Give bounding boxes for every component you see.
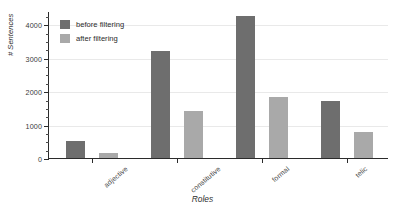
x-axis-title: Roles — [0, 194, 405, 204]
bar-chart: 01000200030004000 adjectiveconstitutivef… — [0, 0, 405, 219]
bar-formal-after-filtering — [269, 97, 288, 158]
y-axis-minor-tick — [46, 84, 49, 85]
y-axis-tick-label: 4000 — [26, 21, 42, 30]
y-axis-minor-tick — [46, 101, 49, 102]
legend-swatch-icon — [60, 34, 70, 43]
y-axis-title: # Sentences — [6, 14, 15, 56]
legend-swatch-icon — [60, 20, 70, 29]
y-axis-minor-tick — [46, 109, 49, 110]
y-axis-minor-tick — [46, 42, 49, 43]
x-axis-category-label: formal — [270, 165, 290, 183]
y-axis-minor-tick — [46, 50, 49, 51]
x-axis-tick — [262, 158, 263, 163]
y-axis-minor-tick — [46, 17, 49, 18]
legend-label: before filtering — [76, 20, 124, 29]
bar-group — [151, 12, 203, 158]
y-axis-tick — [44, 92, 49, 93]
y-axis-tick — [44, 159, 49, 160]
bar-group — [321, 12, 373, 158]
bar-group — [236, 12, 288, 158]
x-axis-category-label: adjective — [102, 165, 128, 189]
x-axis-category-label: constitutive — [189, 165, 221, 194]
y-axis-minor-tick — [46, 34, 49, 35]
bar-adjective-before-filtering — [66, 141, 85, 158]
bar-constitutive-after-filtering — [184, 111, 203, 158]
y-axis-minor-tick — [46, 142, 49, 143]
y-axis-minor-tick — [46, 151, 49, 152]
legend-item: after filtering — [60, 34, 124, 43]
x-axis-tick — [347, 158, 348, 163]
bar-telic-after-filtering — [354, 132, 373, 158]
y-axis-tick-label: 3000 — [26, 54, 42, 63]
y-axis-tick-label: 2000 — [26, 88, 42, 97]
x-axis-tick — [177, 158, 178, 163]
y-axis-tick-label: 0 — [38, 155, 42, 164]
y-axis-minor-tick — [46, 117, 49, 118]
bar-constitutive-before-filtering — [151, 51, 170, 158]
x-axis-category-label: telic — [354, 165, 368, 179]
chart-legend: before filteringafter filtering — [60, 20, 124, 48]
y-axis-tick — [44, 25, 49, 26]
bar-adjective-after-filtering — [99, 153, 118, 158]
x-axis-tick — [92, 158, 93, 163]
legend-item: before filtering — [60, 20, 124, 29]
bar-formal-before-filtering — [236, 16, 255, 158]
y-axis-minor-tick — [46, 67, 49, 68]
y-axis-minor-tick — [46, 134, 49, 135]
y-axis-tick — [44, 126, 49, 127]
y-axis-tick — [44, 59, 49, 60]
y-axis-tick-label: 1000 — [26, 121, 42, 130]
bar-telic-before-filtering — [321, 101, 340, 158]
legend-label: after filtering — [76, 34, 118, 43]
y-axis-minor-tick — [46, 75, 49, 76]
